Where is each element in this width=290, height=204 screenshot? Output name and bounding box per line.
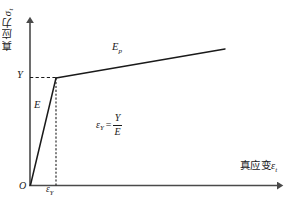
yield-strain-formula: εY = Y E xyxy=(96,113,122,137)
x-axis-title: 真应变εt xyxy=(240,161,278,174)
yield-strain-label: εY xyxy=(46,185,53,196)
plastic-segment xyxy=(56,49,225,78)
yield-stress-label: Y xyxy=(17,70,23,81)
formula-numerator: Y xyxy=(113,113,123,126)
formula-fraction: Y E xyxy=(112,113,122,137)
y-axis-title-text: 真应力 xyxy=(2,16,13,51)
y-axis-symbol: σ xyxy=(2,10,13,16)
formula-denominator: E xyxy=(112,126,122,138)
y-axis-title: 真应力σt xyxy=(3,8,21,51)
formula-equals: = xyxy=(106,120,112,130)
formula-lhs: εY xyxy=(96,120,104,130)
origin-label: O xyxy=(19,181,26,191)
plastic-modulus-subscript: p xyxy=(118,47,122,55)
plastic-modulus-label: Ep xyxy=(112,42,122,55)
formula-lhs-subscript: Y xyxy=(100,124,104,131)
x-axis-subscript: t xyxy=(275,166,277,174)
y-axis-subscript: t xyxy=(7,8,15,10)
elastic-modulus-label: E xyxy=(34,100,40,111)
x-axis-title-text: 真应变 xyxy=(240,160,271,171)
elastic-segment xyxy=(31,78,57,185)
stress-strain-figure: 真应力σt 真应变εt O Y εY E Ep εY = Y E xyxy=(0,0,290,204)
yield-strain-subscript: Y xyxy=(50,189,54,196)
